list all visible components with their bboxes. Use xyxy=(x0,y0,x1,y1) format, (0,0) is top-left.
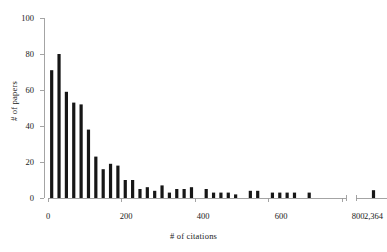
plot-area xyxy=(0,0,387,252)
histogram-bar xyxy=(190,187,193,198)
histogram-bar xyxy=(175,189,178,198)
histogram-bar xyxy=(160,185,163,198)
histogram-bar xyxy=(271,193,274,198)
histogram-bar xyxy=(102,169,105,198)
histogram-figure: # of papers # of citations 0 20 40 60 80… xyxy=(0,0,387,252)
histogram-bar xyxy=(80,104,83,198)
histogram-bar xyxy=(286,193,289,198)
histogram-bar xyxy=(57,54,60,198)
histogram-bar xyxy=(308,193,311,198)
histogram-bar xyxy=(219,193,222,198)
histogram-bar xyxy=(131,180,134,198)
histogram-bar xyxy=(124,180,127,198)
histogram-bar xyxy=(212,193,215,198)
histogram-bar xyxy=(234,194,237,198)
bar-series xyxy=(50,54,375,198)
histogram-bar xyxy=(278,193,281,198)
histogram-bar xyxy=(94,157,97,198)
histogram-bar xyxy=(205,189,208,198)
histogram-bar xyxy=(153,191,156,198)
histogram-bar xyxy=(65,92,68,198)
histogram-bar xyxy=(109,164,112,198)
histogram-bar xyxy=(293,193,296,198)
histogram-bar-outlier xyxy=(372,190,375,198)
histogram-bar xyxy=(50,70,53,198)
histogram-bar xyxy=(183,189,186,198)
histogram-bar xyxy=(168,193,171,198)
histogram-bar xyxy=(256,191,259,198)
histogram-bar xyxy=(72,103,75,198)
histogram-bar xyxy=(146,187,149,198)
histogram-bar xyxy=(227,193,230,198)
histogram-bar xyxy=(87,130,90,198)
histogram-bar xyxy=(116,166,119,198)
histogram-bar xyxy=(249,191,252,198)
histogram-bar xyxy=(138,189,141,198)
